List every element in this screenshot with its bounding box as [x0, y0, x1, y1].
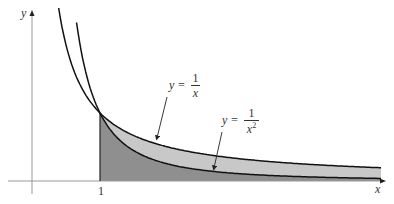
fraction-denominator: x2: [244, 122, 259, 135]
x-axis-label: x: [375, 183, 380, 195]
label-one-over-x-squared-fraction: 1 x2: [244, 107, 259, 135]
x-axis-arrow-icon: [380, 179, 386, 184]
y-axis-label: y: [21, 7, 26, 19]
callout-arrow-one-over-x: [157, 97, 167, 138]
y-axis-arrow-icon: [30, 10, 35, 16]
graph-canvas: [0, 0, 394, 204]
x-tick-1: 1: [98, 185, 104, 197]
fraction-numerator: 1: [244, 107, 259, 119]
label-one-over-x-squared-lhs: y =: [222, 114, 238, 126]
label-one-over-x-lhs: y =: [169, 79, 185, 91]
fraction-denominator: x: [191, 87, 200, 99]
fraction-numerator: 1: [191, 72, 200, 84]
label-one-over-x-fraction: 1 x: [191, 72, 200, 99]
